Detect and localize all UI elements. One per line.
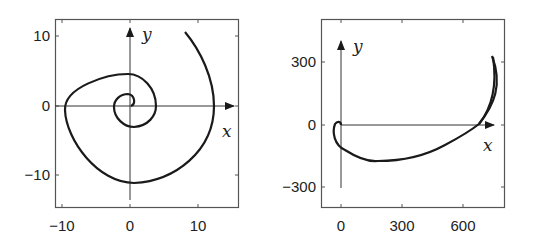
left-x-var-label: x xyxy=(222,121,232,141)
right-x-tick-label: 300 xyxy=(389,217,414,234)
figure: y x −10 0 10 10 0 −10 y xyxy=(0,0,546,240)
right-x-tick-label: 0 xyxy=(337,217,345,234)
right-plot: y x 0 300 600 300 0 −300 xyxy=(282,19,505,234)
right-plot-frame xyxy=(322,20,505,208)
right-y-var-label: y xyxy=(352,36,363,56)
left-x-tick-label: 10 xyxy=(190,217,207,234)
right-y-tick-label: −300 xyxy=(282,178,316,195)
left-x-tick-label: 0 xyxy=(126,217,134,234)
left-y-tick-label: 10 xyxy=(33,27,50,44)
left-y-tick-label: 0 xyxy=(42,97,50,114)
right-y-tick-label: 0 xyxy=(308,116,316,133)
right-y-tick-label: 300 xyxy=(291,53,316,70)
left-plot: y x −10 0 10 10 0 −10 xyxy=(25,19,239,234)
left-x-tick-label: −10 xyxy=(49,217,74,234)
left-spiral-curve xyxy=(65,32,214,183)
left-y-tick-label: −10 xyxy=(25,166,50,183)
left-plot-frame xyxy=(56,20,239,208)
right-curve xyxy=(334,56,497,161)
right-curve-tail xyxy=(479,57,495,124)
right-x-var-label: x xyxy=(483,135,493,155)
right-x-tick-label: 600 xyxy=(450,217,475,234)
left-y-var-label: y xyxy=(141,24,152,44)
